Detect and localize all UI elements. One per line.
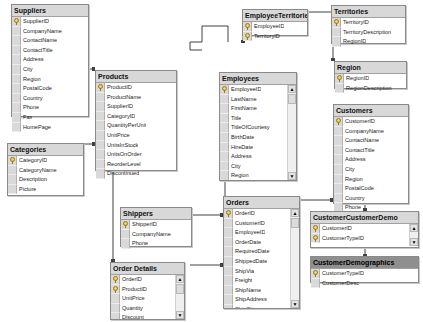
column-row[interactable]: ShippedDate bbox=[224, 257, 299, 267]
column-row[interactable]: RegionID bbox=[332, 37, 405, 47]
column-row[interactable]: FirstName bbox=[220, 104, 296, 114]
column-row[interactable]: Address bbox=[220, 152, 296, 162]
table-customers[interactable]: Customers CustomerID CompanyName Contact… bbox=[333, 104, 409, 204]
column-row[interactable]: ShipCity bbox=[224, 305, 299, 308]
column-row[interactable]: TerritoryID bbox=[243, 32, 307, 42]
column-row[interactable]: OrderID bbox=[111, 275, 184, 285]
column-row[interactable]: LastName bbox=[220, 95, 296, 105]
table-order-details[interactable]: Order Details OrderID ProductID UnitPric… bbox=[110, 262, 185, 320]
column-row[interactable]: EmployeeID bbox=[220, 85, 296, 95]
column-row[interactable]: Description bbox=[8, 175, 83, 185]
column-row[interactable]: City bbox=[12, 65, 88, 75]
table-title[interactable]: Customers bbox=[334, 105, 408, 117]
column-row[interactable]: BirthDate bbox=[220, 133, 296, 143]
column-row[interactable]: Region bbox=[12, 75, 88, 85]
column-row[interactable]: PostalCode bbox=[334, 184, 408, 194]
column-row[interactable]: OrderID bbox=[224, 209, 299, 219]
scroll-thumb[interactable] bbox=[291, 218, 299, 228]
column-row[interactable]: SupplierID bbox=[12, 17, 88, 27]
column-row[interactable]: RegionDescription bbox=[335, 84, 406, 94]
vertical-scrollbar[interactable]: ▲ ▼ bbox=[409, 224, 418, 246]
column-row[interactable]: CompanyName bbox=[12, 27, 88, 37]
column-row[interactable]: EmployeeID bbox=[243, 22, 307, 32]
table-title[interactable]: Region bbox=[335, 62, 406, 74]
column-row[interactable]: ShipName bbox=[224, 286, 299, 296]
scroll-down-arrow-icon[interactable]: ▼ bbox=[176, 311, 184, 319]
scroll-up-arrow-icon[interactable]: ▲ bbox=[176, 275, 184, 283]
column-row[interactable]: City bbox=[334, 165, 408, 175]
column-row[interactable]: ShipAddress bbox=[224, 295, 299, 305]
vertical-scrollbar[interactable]: ▲ ▼ bbox=[287, 85, 296, 180]
column-row[interactable]: ProductID bbox=[96, 83, 176, 93]
table-region[interactable]: Region RegionID RegionDescription bbox=[334, 61, 407, 89]
column-row[interactable]: Region bbox=[220, 171, 296, 180]
scroll-up-arrow-icon[interactable]: ▲ bbox=[291, 209, 299, 217]
scroll-down-arrow-icon[interactable]: ▼ bbox=[291, 300, 299, 308]
table-customer-customer-demo[interactable]: CustomerCustomerDemo CustomerID Customer… bbox=[310, 211, 419, 248]
scroll-thumb[interactable] bbox=[288, 94, 296, 104]
column-row[interactable]: TerritoryDescription bbox=[332, 28, 405, 38]
column-row[interactable]: Country bbox=[12, 94, 88, 104]
column-row[interactable]: UnitPrice bbox=[96, 131, 176, 141]
table-title[interactable]: Orders bbox=[224, 197, 299, 209]
column-row[interactable]: Freight bbox=[224, 276, 299, 286]
column-row[interactable]: ContactName bbox=[12, 36, 88, 46]
column-row[interactable]: RequiredDate bbox=[224, 247, 299, 257]
column-row[interactable]: QuantityPerUnit bbox=[96, 121, 176, 131]
column-row[interactable]: ProductID bbox=[111, 285, 184, 295]
column-row[interactable]: Phone bbox=[121, 239, 191, 249]
column-row[interactable]: CustomerDesc bbox=[311, 279, 418, 289]
scroll-down-arrow-icon[interactable]: ▼ bbox=[410, 238, 418, 246]
column-row[interactable]: Quantity bbox=[111, 304, 184, 314]
column-row[interactable]: City bbox=[220, 162, 296, 172]
column-row[interactable]: HomePage bbox=[12, 123, 88, 133]
scroll-down-arrow-icon[interactable]: ▼ bbox=[288, 172, 296, 180]
column-row[interactable]: OrderDate bbox=[224, 238, 299, 248]
scroll-up-arrow-icon[interactable]: ▲ bbox=[288, 85, 296, 93]
column-row[interactable]: CustomerID bbox=[224, 219, 299, 229]
column-row[interactable]: ProductName bbox=[96, 93, 176, 103]
column-row[interactable]: CompanyName bbox=[121, 230, 191, 240]
column-row[interactable]: CustomerTypeID bbox=[311, 269, 418, 279]
column-row[interactable]: TitleOfCourtesy bbox=[220, 123, 296, 133]
column-row[interactable]: CompanyName bbox=[334, 127, 408, 137]
table-title[interactable]: Categories bbox=[8, 144, 83, 156]
column-row[interactable]: UnitPrice bbox=[111, 294, 184, 304]
column-row[interactable]: Phone bbox=[12, 103, 88, 113]
scroll-thumb[interactable] bbox=[176, 284, 184, 294]
table-title[interactable]: CustomerCustomerDemo bbox=[311, 212, 418, 224]
column-row[interactable]: ReorderLevel bbox=[96, 160, 176, 170]
column-row[interactable]: ShipVia bbox=[224, 267, 299, 277]
table-title[interactable]: Suppliers bbox=[12, 5, 88, 17]
column-row[interactable]: HireDate bbox=[220, 143, 296, 153]
column-row[interactable]: ContactTitle bbox=[334, 146, 408, 156]
table-title[interactable]: Order Details bbox=[111, 263, 184, 275]
column-row[interactable]: TerritoryID bbox=[332, 18, 405, 28]
table-title[interactable]: Territories bbox=[332, 6, 405, 18]
column-row[interactable]: SupplierID bbox=[96, 102, 176, 112]
column-row[interactable]: Country bbox=[334, 194, 408, 204]
table-categories[interactable]: Categories CategoryID CategoryName Descr… bbox=[7, 143, 84, 196]
column-row[interactable]: PostalCode bbox=[12, 84, 88, 94]
column-row[interactable]: Discount bbox=[111, 313, 184, 319]
column-row[interactable]: CategoryID bbox=[96, 112, 176, 122]
column-row[interactable]: CustomerTypeID bbox=[311, 234, 418, 244]
column-row[interactable]: UnitsInStock bbox=[96, 141, 176, 151]
table-products[interactable]: Products ProductID ProductName SupplierI… bbox=[95, 70, 177, 171]
table-territories[interactable]: Territories TerritoryID TerritoryDescrip… bbox=[331, 5, 406, 44]
table-title[interactable]: CustomerDemographics bbox=[311, 257, 418, 269]
column-row[interactable]: ShipperID bbox=[121, 220, 191, 230]
vertical-scrollbar[interactable]: ▲ ▼ bbox=[290, 209, 299, 308]
table-employees[interactable]: Employees EmployeeID LastName FirstName … bbox=[219, 72, 297, 181]
column-row[interactable]: CustomerID bbox=[311, 224, 418, 234]
table-title[interactable]: Employees bbox=[220, 73, 296, 85]
column-row[interactable]: Region bbox=[334, 175, 408, 185]
table-customer-demographics[interactable]: CustomerDemographics CustomerTypeID Cust… bbox=[310, 256, 419, 283]
column-row[interactable]: Title bbox=[220, 114, 296, 124]
table-title[interactable]: EmployeeTerritories bbox=[243, 10, 307, 22]
column-row[interactable]: RegionID bbox=[335, 74, 406, 84]
column-row[interactable]: CategoryID bbox=[8, 156, 83, 166]
column-row[interactable]: Discontinued bbox=[96, 169, 176, 179]
column-row[interactable]: CategoryName bbox=[8, 166, 83, 176]
table-employee-territories[interactable]: EmployeeTerritories EmployeeID Territory… bbox=[242, 9, 308, 36]
